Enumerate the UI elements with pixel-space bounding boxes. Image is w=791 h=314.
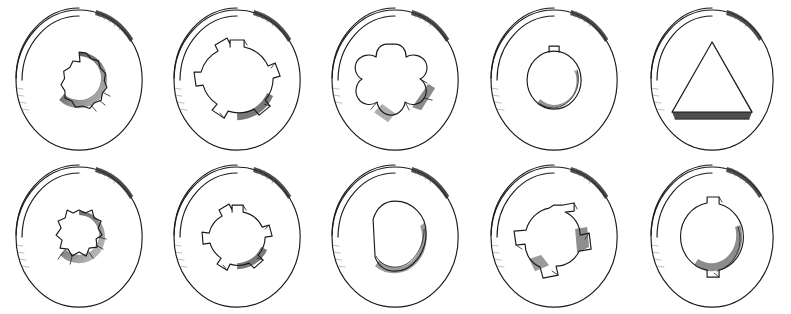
collar-eight-tooth-spline-bore[interactable] — [0, 157, 158, 314]
collar-triangular-bore[interactable] — [633, 0, 791, 157]
collar-four-keyway-small-bore[interactable] — [158, 157, 316, 314]
eight-tooth-spline-bore-drawing — [0, 157, 158, 314]
collar-d-shaped-bore[interactable] — [316, 157, 474, 314]
two-keyway-bore-drawing — [633, 157, 791, 314]
bore-profile-grid — [0, 0, 791, 314]
d-shaped-bore-drawing — [316, 157, 474, 314]
triangular-bore-drawing — [633, 0, 791, 157]
four-keyway-bore-drawing — [158, 0, 316, 157]
collar-tri-wing-bore[interactable] — [475, 157, 633, 314]
collar-twelve-point-bore[interactable] — [0, 0, 158, 157]
collar-four-keyway-bore[interactable] — [158, 0, 316, 157]
collar-single-keyway-bore[interactable] — [475, 0, 633, 157]
twelve-point-bore-drawing — [0, 0, 158, 157]
tri-wing-bore-drawing — [475, 157, 633, 314]
single-keyway-bore-drawing — [475, 0, 633, 157]
four-keyway-small-bore-drawing — [158, 157, 316, 314]
collar-five-lobe-star-bore[interactable] — [316, 0, 474, 157]
collar-two-keyway-bore[interactable] — [633, 157, 791, 314]
five-lobe-star-bore-drawing — [316, 0, 474, 157]
drawing-plate — [0, 0, 791, 314]
